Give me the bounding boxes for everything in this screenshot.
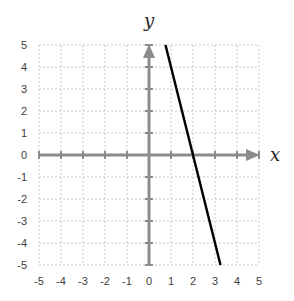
x-tick-label: -1 <box>122 275 132 287</box>
y-tick-label: 3 <box>21 83 27 95</box>
y-tick-label: 0 <box>21 149 27 161</box>
x-tick-label: -5 <box>34 275 44 287</box>
y-tick-label: -1 <box>17 171 27 183</box>
x-tick-label: -3 <box>78 275 88 287</box>
y-tick-label: -3 <box>17 215 27 227</box>
y-axis-title: y <box>143 10 155 31</box>
axes <box>39 44 260 265</box>
x-tick-label: 3 <box>212 275 218 287</box>
y-axis-arrow-icon <box>143 44 155 58</box>
y-tick-labels: 543210-1-2-3-4-5 <box>17 39 27 271</box>
y-tick-label: -4 <box>17 237 27 249</box>
x-tick-label: 5 <box>256 275 262 287</box>
y-tick-label: -5 <box>17 259 27 271</box>
y-tick-label: -2 <box>17 193 27 205</box>
x-tick-label: -2 <box>100 275 110 287</box>
x-tick-label: -4 <box>56 275 66 287</box>
x-axis-arrow-icon <box>246 149 260 161</box>
y-tick-label: 2 <box>21 105 27 117</box>
x-tick-label: 4 <box>234 275 240 287</box>
x-tick-label: 2 <box>190 275 196 287</box>
x-tick-label: 1 <box>168 275 174 287</box>
y-tick-label: 1 <box>21 127 27 139</box>
x-axis-title: x <box>270 144 280 165</box>
y-tick-label: 5 <box>21 39 27 51</box>
y-tick-label: 4 <box>21 61 27 73</box>
x-tick-labels: -5-4-3-2-1012345 <box>34 275 262 287</box>
coordinate-plane-chart: -5-4-3-2-1012345 543210-1-2-3-4-5 x y <box>0 0 294 301</box>
x-tick-label: 0 <box>146 275 152 287</box>
